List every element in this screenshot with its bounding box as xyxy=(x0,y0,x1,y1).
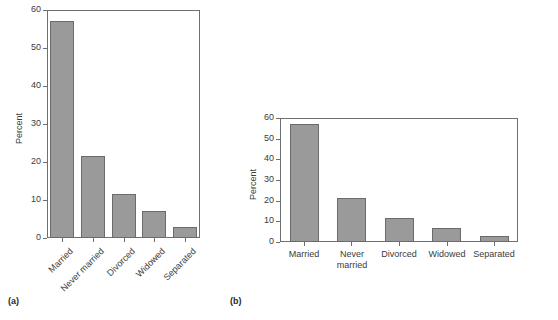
y-tick-label: 60 xyxy=(17,4,41,14)
y-tick-label: 40 xyxy=(250,153,274,163)
y-tick-mark xyxy=(276,221,280,222)
panel-a-caption: (a) xyxy=(8,296,19,306)
panel-a: Percent 0102030405060 MarriedNever marri… xyxy=(0,0,230,320)
panel-b-caption: (b) xyxy=(230,296,242,306)
x-tick-label: Never married xyxy=(328,249,376,271)
bar xyxy=(112,194,136,238)
y-tick-label: 30 xyxy=(250,174,274,184)
x-tick-mark xyxy=(494,242,495,246)
bar xyxy=(290,124,319,242)
bar xyxy=(385,218,414,242)
x-tick-mark xyxy=(93,238,94,242)
bar xyxy=(50,21,74,238)
x-tick-mark xyxy=(124,238,125,242)
y-tick-mark xyxy=(276,201,280,202)
y-tick-mark xyxy=(276,139,280,140)
x-tick-label: Married xyxy=(280,249,328,260)
x-tick-mark xyxy=(399,242,400,246)
y-tick-label: 10 xyxy=(250,215,274,225)
bar xyxy=(480,236,509,242)
y-tick-label: 10 xyxy=(17,194,41,204)
y-tick-label: 30 xyxy=(17,118,41,128)
y-tick-label: 50 xyxy=(250,133,274,143)
x-tick-mark xyxy=(185,238,186,242)
bar xyxy=(432,228,461,242)
y-tick-mark xyxy=(276,118,280,119)
y-tick-mark xyxy=(43,124,47,125)
y-tick-mark xyxy=(43,86,47,87)
bar xyxy=(173,227,197,238)
x-tick-mark xyxy=(62,238,63,242)
y-tick-label: 0 xyxy=(17,232,41,242)
x-tick-label: Separated xyxy=(470,249,518,260)
y-tick-label: 20 xyxy=(17,156,41,166)
y-tick-label: 20 xyxy=(250,195,274,205)
figure-two-bar-charts: Percent 0102030405060 MarriedNever marri… xyxy=(0,0,558,320)
y-tick-mark xyxy=(43,10,47,11)
x-tick-label: Divorced xyxy=(375,249,423,260)
bar xyxy=(81,156,105,238)
y-tick-label: 0 xyxy=(250,236,274,246)
x-tick-mark xyxy=(447,242,448,246)
bar xyxy=(142,211,166,238)
y-tick-label: 50 xyxy=(17,42,41,52)
y-tick-mark xyxy=(43,48,47,49)
y-tick-mark xyxy=(43,200,47,201)
y-tick-mark xyxy=(43,162,47,163)
y-tick-label: 60 xyxy=(250,112,274,122)
x-tick-mark xyxy=(351,242,352,246)
x-tick-mark xyxy=(154,238,155,242)
y-tick-mark xyxy=(276,159,280,160)
y-tick-label: 40 xyxy=(17,80,41,90)
panel-b: Percent 0102030405060 MarriedNever marri… xyxy=(230,0,558,320)
y-tick-mark xyxy=(276,180,280,181)
x-tick-label: Widowed xyxy=(423,249,471,260)
bar xyxy=(337,198,366,242)
y-tick-mark xyxy=(43,238,47,239)
y-tick-mark xyxy=(276,242,280,243)
x-tick-mark xyxy=(304,242,305,246)
